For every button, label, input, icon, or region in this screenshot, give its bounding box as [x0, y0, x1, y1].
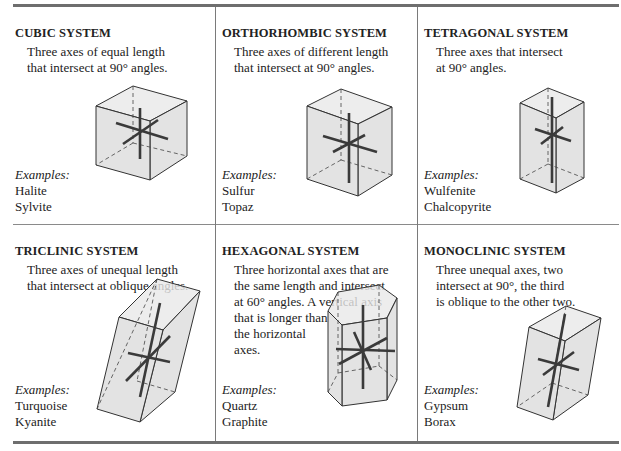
cell-tetragonal: TETRAGONAL SYSTEM Three axes that inters… — [424, 7, 621, 224]
cell-hexagonal: HEXAGONAL SYSTEM Three horizontal axes t… — [222, 225, 424, 442]
orthorhombic-crystal-diagram — [222, 7, 424, 224]
cell-triclinic: TRICLINIC SYSTEM Three axes of unequal l… — [15, 225, 217, 442]
tetragonal-crystal-diagram — [424, 7, 621, 224]
monoclinic-crystal-diagram — [424, 225, 621, 442]
cell-cubic: CUBIC SYSTEM Three axes of equal length … — [15, 7, 217, 224]
cubic-crystal-diagram — [15, 7, 217, 224]
cell-monoclinic: MONOCLINIC SYSTEM Three unequal axes, tw… — [424, 225, 621, 442]
cell-orthorhombic: ORTHORHOMBIC SYSTEM Three axes of differ… — [222, 7, 424, 224]
hexagonal-crystal-diagram — [222, 225, 424, 442]
triclinic-crystal-diagram — [15, 225, 217, 442]
